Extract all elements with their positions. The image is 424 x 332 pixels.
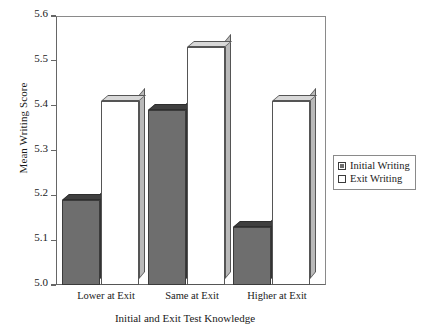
bar-side-face — [139, 88, 145, 279]
y-axis-tick-label: 5.4 — [34, 98, 48, 109]
plot-area — [56, 16, 326, 285]
chart-legend: Initial Writing Exit Writing — [333, 155, 416, 190]
empty-square-icon — [338, 175, 346, 183]
y-axis-tick-label: 5.6 — [34, 8, 48, 19]
x-axis-tick-label: Higher at Exit — [222, 290, 332, 301]
filled-square-icon — [338, 162, 346, 170]
bar — [62, 200, 100, 285]
bar-front-face — [62, 200, 100, 285]
bar — [233, 227, 271, 285]
tick-mark — [51, 15, 56, 16]
y-axis-tick-label: 5.5 — [34, 53, 48, 64]
bar-front-face — [148, 110, 186, 285]
legend-item-initial-writing: Initial Writing — [338, 159, 410, 172]
bar-front-face — [187, 47, 225, 285]
legend-label: Initial Writing — [350, 159, 410, 172]
bar-front-face — [233, 227, 271, 285]
legend-item-exit-writing: Exit Writing — [338, 172, 410, 185]
legend-label: Exit Writing — [350, 172, 402, 185]
y-axis-tick-label: 5.0 — [34, 277, 48, 288]
bar — [101, 101, 139, 285]
tick-mark — [51, 60, 56, 61]
x-axis-title: Initial and Exit Test Knowledge — [40, 312, 330, 324]
tick-mark — [51, 105, 56, 106]
y-axis-title: Mean Writing Score — [17, 53, 29, 203]
bar — [148, 110, 186, 285]
y-axis-tick-label: 5.2 — [34, 187, 48, 198]
tick-mark — [51, 195, 56, 196]
bar-side-face — [310, 88, 316, 279]
bar-front-face — [272, 101, 310, 285]
tick-mark — [51, 284, 56, 285]
bar-front-face — [101, 101, 139, 285]
y-axis-tick-label: 5.1 — [34, 232, 48, 243]
y-axis-tick-label: 5.3 — [34, 143, 48, 154]
bar — [272, 101, 310, 285]
bar — [187, 47, 225, 285]
tick-mark — [51, 150, 56, 151]
tick-mark — [51, 240, 56, 241]
bar-chart: Mean Writing Score Initial and Exit Test… — [0, 0, 424, 332]
bar-side-face — [225, 34, 231, 279]
